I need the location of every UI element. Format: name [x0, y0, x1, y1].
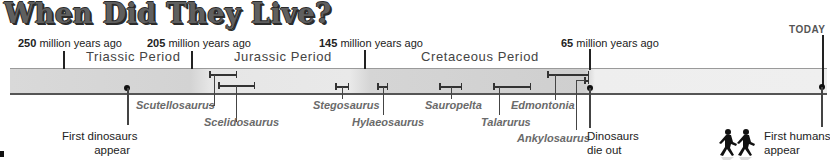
event-label-line1: First humans [764, 129, 830, 143]
marker-today: TODAY [789, 24, 825, 35]
tick-145-mya [364, 50, 366, 69]
event-line-dinosaurs-die-out [589, 88, 591, 128]
species-sauropelta: Sauropelta [425, 99, 482, 111]
connector-stegosaurus [342, 87, 343, 99]
marker-suffix: million years ago [337, 37, 423, 49]
connector-hylaeosaurus [383, 87, 384, 115]
timeline-bar [10, 68, 827, 95]
connector-talarurus [499, 87, 500, 115]
event-label-line1: Dinosaurs [587, 129, 639, 143]
species-talarurus: Talarurus [481, 116, 531, 128]
walking-humans-icon [716, 128, 760, 160]
connector-sauropelta [451, 87, 452, 99]
connector-edmontonia [555, 75, 556, 100]
partial-figure-icon [0, 151, 4, 157]
species-scelidosaurus: Scelidosaurus [204, 116, 279, 128]
event-label-line1: First dinosaurs [62, 129, 130, 143]
marker-205-mya: 205 million years ago [147, 37, 251, 49]
event-label-line2: die out [587, 143, 639, 157]
marker-suffix: million years ago [573, 37, 659, 49]
species-edmontonia: Edmontonia [511, 99, 575, 111]
marker-value: 250 [18, 37, 36, 49]
event-line-first-humans [821, 87, 823, 127]
tick-65-mya [589, 49, 591, 70]
species-ankylosaurus: Ankylosaurus [517, 132, 590, 144]
species-hylaeosaurus: Hylaeosaurus [352, 116, 424, 128]
connector-ankylosaurus [576, 80, 577, 130]
page-title: When Did They Live? [4, 0, 332, 29]
tick-today [822, 35, 824, 88]
marker-145-mya: 145 million years ago [319, 37, 423, 49]
connector-ankylosaurus-h [576, 80, 585, 81]
event-label-line2: appear [764, 143, 830, 157]
period-cretaceous: Cretaceous Period [421, 49, 539, 64]
range-edmontonia [547, 74, 589, 76]
event-line-first-dinosaurs [127, 88, 129, 125]
event-first-humans: First humans appear [764, 129, 830, 157]
marker-value: 65 [561, 37, 573, 49]
event-dinosaurs-die-out: Dinosaurs die out [587, 129, 639, 157]
marker-250-mya: 250 million years ago [18, 37, 122, 49]
marker-value: 205 [147, 37, 165, 49]
tick-250-mya [63, 51, 65, 69]
marker-65-mya: 65 million years ago [561, 37, 659, 49]
event-first-dinosaurs: First dinosaurs appear [62, 129, 130, 157]
species-stegosaurus: Stegosaurus [313, 99, 380, 111]
period-triassic: Triassic Period [86, 49, 180, 64]
species-scutellosaurus: Scutellosaurus [136, 99, 215, 111]
period-jurassic: Jurassic Period [234, 49, 332, 64]
event-label-line2: appear [62, 143, 130, 157]
marker-suffix: million years ago [165, 37, 251, 49]
marker-suffix: million years ago [36, 37, 122, 49]
marker-value: 145 [319, 37, 337, 49]
tick-205-mya [191, 51, 193, 69]
